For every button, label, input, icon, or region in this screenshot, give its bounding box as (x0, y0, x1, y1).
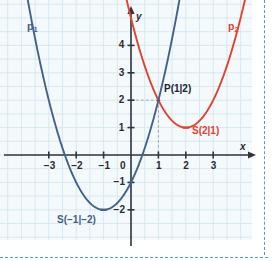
x-tick-label--2: −2 (71, 161, 82, 171)
y-intercept-marker-p1 (129, 181, 132, 184)
x-tick-label--1: −1 (99, 161, 110, 171)
y-tick-label--1: −1 (114, 177, 125, 187)
y-axis-label: y (136, 12, 142, 22)
intersection-point-label: P(1|2) (164, 84, 191, 94)
page-edge-dashed-bottom (0, 257, 268, 258)
x-tick-label-3: 3 (211, 161, 217, 171)
x-tick-label-1: 1 (156, 161, 162, 171)
y-tick-label-2: 2 (119, 95, 125, 105)
curve-label-p2: p2 (228, 21, 239, 34)
curve-label-p1: p1 (27, 21, 38, 34)
y-tick-label-3: 3 (119, 68, 125, 78)
vertex-label-p2: S(2|1) (192, 126, 219, 136)
x-tick-label-2: 2 (183, 161, 189, 171)
x-tick-label--3: −3 (44, 161, 55, 171)
plot-background (0, 0, 252, 240)
x-axis-label: x (240, 142, 246, 152)
y-tick-label-1: 1 (119, 123, 125, 133)
vertex-label-p1: S(−1|−2) (57, 215, 96, 225)
parabola-chart (0, 0, 273, 261)
intersection-marker (157, 98, 161, 102)
page-edge-dashed-right (264, 0, 265, 255)
origin-label: 0 (120, 161, 126, 171)
y-tick-label--2: −2 (114, 205, 125, 215)
y-tick-label-4: 4 (119, 40, 125, 50)
figure-container: p1 p2 P(1|2) S(2|1) S(−1|−2) x y −3−2−10… (0, 0, 273, 261)
